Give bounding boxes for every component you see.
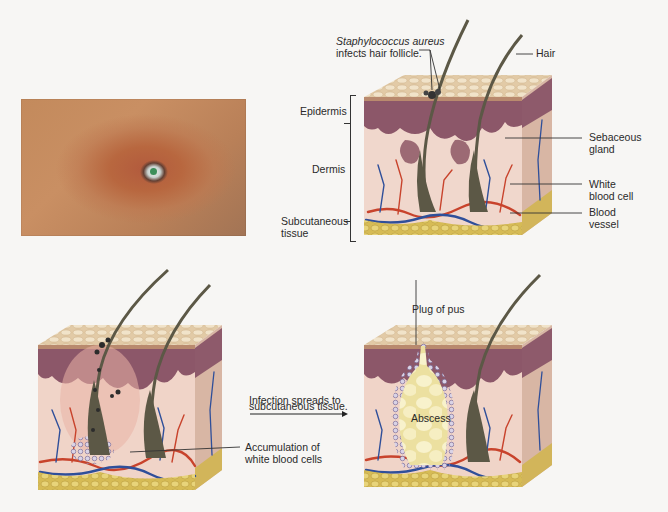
callout-staph-line1: Staphylococcus aureus (336, 35, 445, 47)
callout-accumulation-line1: Accumulation of (245, 441, 320, 453)
transition-text-line2: subcutaneous tissue. (249, 400, 348, 412)
callout-staph-line2: infects hair follicle. (336, 47, 422, 59)
block-bottom-left (38, 270, 222, 490)
label-abscess: Abscess (411, 412, 451, 424)
callout-accumulation-line2: white blood cells (245, 453, 322, 465)
callout-sebaceous-line2: gland (589, 143, 615, 155)
skin-block-infected-follicle (0, 0, 668, 512)
label-subcutaneous-line2: tissue (281, 227, 308, 239)
label-subcutaneous-line1: Subcutaneous (281, 215, 348, 227)
callout-vessel-line1: Blood (589, 206, 616, 218)
callout-wbc-line1: White (589, 178, 616, 190)
label-epidermis: Epidermis (300, 105, 347, 117)
label-dermis: Dermis (312, 163, 345, 175)
bracket-tick-epidermis (344, 123, 350, 124)
callout-plug-of-pus: Plug of pus (412, 303, 465, 315)
callout-sebaceous-line1: Sebaceous (589, 131, 642, 143)
callout-wbc-line2: blood cell (589, 190, 633, 202)
layer-bracket (350, 95, 356, 242)
callout-vessel-line2: vessel (589, 218, 619, 230)
callout-hair: Hair (536, 47, 555, 59)
